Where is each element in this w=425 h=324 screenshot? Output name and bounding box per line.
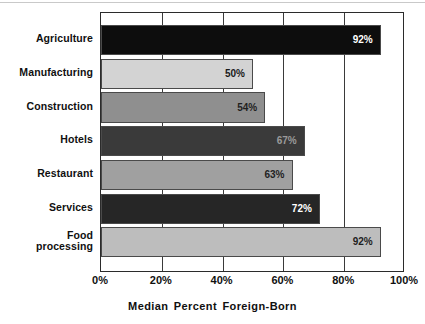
- category-label: Food processing: [36, 230, 93, 253]
- top-divider-rule: [0, 2, 425, 3]
- bar: 67%: [101, 126, 305, 156]
- bar: 72%: [101, 194, 320, 224]
- category-label: Manufacturing: [19, 67, 93, 79]
- bar: 50%: [101, 59, 253, 89]
- category-label: Hotels: [60, 134, 93, 146]
- bar: 92%: [101, 227, 381, 257]
- category-axis: AgricultureManufacturingConstructionHote…: [0, 12, 97, 272]
- bar: 54%: [101, 92, 265, 122]
- x-tick-label: 0%: [92, 274, 108, 286]
- bar-value-label: 50%: [225, 69, 252, 79]
- category-label: Services: [49, 202, 93, 214]
- bar-value-label: 67%: [277, 136, 304, 146]
- bar-chart-figure: AgricultureManufacturingConstructionHote…: [0, 0, 425, 324]
- bar-value-label: 92%: [353, 237, 380, 247]
- bars-layer: 92%50%54%67%63%72%92%: [101, 13, 403, 271]
- x-tick-label: 100%: [390, 274, 418, 286]
- x-tick-label: 20%: [150, 274, 172, 286]
- plot-area: 92%50%54%67%63%72%92%: [100, 12, 404, 272]
- category-label: Construction: [26, 101, 93, 113]
- bar-value-label: 54%: [237, 103, 264, 113]
- category-label: Agriculture: [36, 33, 93, 45]
- x-axis-title: Median Percent Foreign-Born: [0, 300, 425, 312]
- bar-value-label: 63%: [265, 170, 292, 180]
- x-axis-tick-labels: 0%20%40%60%80%100%: [100, 274, 404, 290]
- bar: 92%: [101, 25, 381, 55]
- x-tick-label: 40%: [211, 274, 233, 286]
- bar: 63%: [101, 160, 293, 190]
- x-tick-label: 60%: [271, 274, 293, 286]
- bar-value-label: 92%: [353, 35, 380, 45]
- x-tick-label: 80%: [332, 274, 354, 286]
- category-label: Restaurant: [37, 168, 93, 180]
- bar-value-label: 72%: [292, 204, 319, 214]
